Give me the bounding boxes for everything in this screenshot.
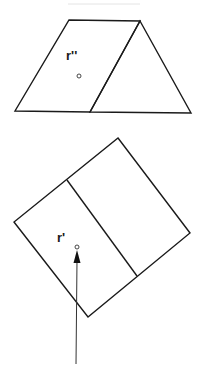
top-parallelogram-face [15, 20, 140, 112]
point-r-double-prime [77, 74, 81, 78]
top-figure [15, 20, 191, 113]
diagram-canvas: r'' r' [0, 0, 208, 379]
arrow-shaft [76, 260, 77, 364]
point-r-prime [75, 245, 79, 249]
label-r-double-prime: r'' [66, 48, 77, 63]
bottom-figure [14, 138, 190, 317]
label-r-prime: r' [57, 230, 65, 245]
arrow-head-icon [74, 250, 81, 263]
top-triangle-face [90, 21, 191, 113]
